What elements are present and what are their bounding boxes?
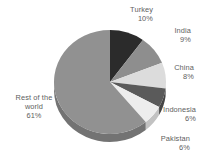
slice-label-india-value: 9% xyxy=(150,35,191,44)
slice-label-rest-value: 61% xyxy=(2,111,66,120)
slice-label-pakistan-value: 6% xyxy=(138,143,190,152)
slice-label-china-name: China xyxy=(148,63,194,72)
slice-label-turkey: Turkey 10% xyxy=(108,5,153,23)
slice-label-rest-line2: world xyxy=(2,102,66,111)
slice-label-rest-of-the-world: Rest of the world 61% xyxy=(2,93,66,121)
slice-label-indonesia-value: 6% xyxy=(140,114,196,123)
slice-label-china: China 8% xyxy=(148,63,194,81)
slice-label-rest-line1: Rest of the xyxy=(2,93,66,102)
pie-chart: Turkey 10% India 9% China 8% Indonesia 6… xyxy=(0,0,207,167)
slice-label-indonesia-name: Indonesia xyxy=(140,105,196,114)
slice-label-china-value: 8% xyxy=(148,72,194,81)
slice-label-india: India 9% xyxy=(150,26,191,44)
slice-label-india-name: India xyxy=(150,26,191,35)
slice-label-pakistan-name: Pakistan xyxy=(138,134,190,143)
slice-label-turkey-name: Turkey xyxy=(108,5,153,14)
slice-label-turkey-value: 10% xyxy=(108,14,153,23)
slice-label-indonesia: Indonesia 6% xyxy=(140,105,196,123)
slice-label-pakistan: Pakistan 6% xyxy=(138,134,190,152)
